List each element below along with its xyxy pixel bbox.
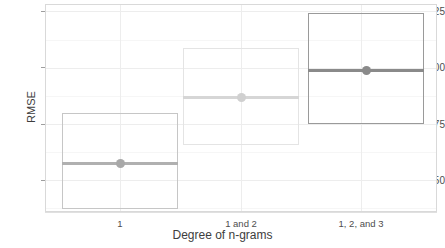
chart-figure: RMSE 16.25 16.00 15.75 15.50 xyxy=(0,0,445,248)
mean-point-category-1-2-and-3 xyxy=(362,66,371,75)
plot-panel xyxy=(45,4,437,212)
mean-point-category-1-and-2 xyxy=(237,93,246,102)
y-axis-title: RMSE xyxy=(25,72,37,142)
mean-point-category-1 xyxy=(116,159,125,168)
x-axis-title: Degree of n-grams xyxy=(0,228,445,242)
x-axis-line xyxy=(45,212,437,213)
